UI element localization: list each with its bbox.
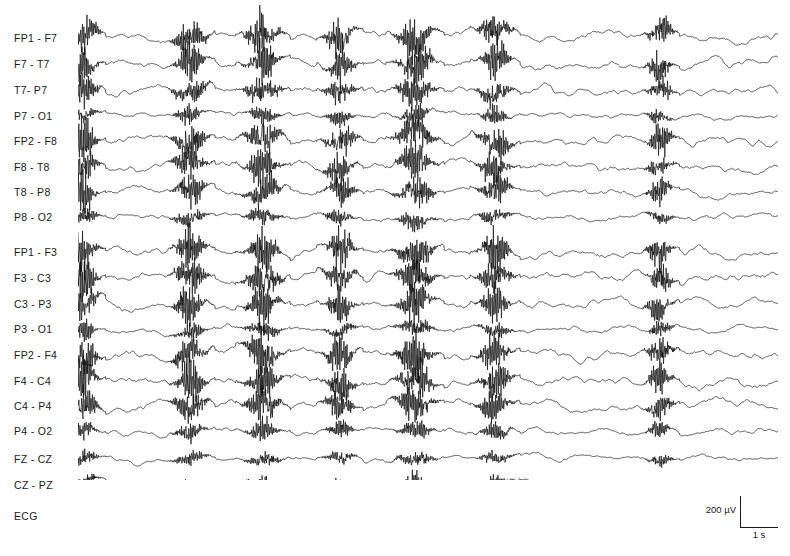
calibration-bar: 200 µV 1 s <box>694 494 790 542</box>
trace-p4-o2 <box>78 416 778 444</box>
channel-label-ecg: ECG <box>0 510 70 522</box>
trace-t7-p7 <box>78 72 778 111</box>
channel-label-f7-t7: F7 - T7 <box>0 58 70 70</box>
channel-label-f8-t8: F8 - T8 <box>0 161 70 173</box>
channel-label-cz-pz: CZ - PZ <box>0 479 70 491</box>
calibration-amplitude-label: 200 µV <box>694 504 736 515</box>
channel-label-column: FP1 - F7F7 - T7T7- P7P7 - O1FP2 - F8F8 -… <box>0 0 78 480</box>
eeg-figure: FP1 - F7F7 - T7T7- P7P7 - O1FP2 - F8F8 -… <box>0 0 790 556</box>
trace-p3-o1 <box>78 319 778 342</box>
channel-label-f3-c3: F3 - C3 <box>0 272 70 284</box>
channel-label-c4-p4: C4 - P4 <box>0 400 70 412</box>
channel-label-c3-p3: C3 - P3 <box>0 298 70 310</box>
trace-f4-c4 <box>78 356 778 405</box>
channel-label-fp1-f7: FP1 - F7 <box>0 32 70 44</box>
channel-label-fp1-f3: FP1 - F3 <box>0 246 70 258</box>
channel-label-f4-c4: F4 - C4 <box>0 375 70 387</box>
channel-label-p7-o1: P7 - O1 <box>0 110 70 122</box>
trace-c4-p4 <box>78 385 778 424</box>
eeg-trace-area <box>78 0 778 480</box>
eeg-trace-svg <box>78 0 778 480</box>
calibration-amplitude-line <box>740 496 741 528</box>
channel-label-fz-cz: FZ - CZ <box>0 453 70 465</box>
channel-label-t8-p8: T8 - P8 <box>0 186 70 198</box>
calibration-time-line <box>740 527 778 528</box>
trace-p8-o2 <box>78 208 778 232</box>
trace-p7-o1 <box>78 103 778 128</box>
calibration-time-label: 1 s <box>740 529 778 540</box>
trace-cz-pz <box>78 470 778 480</box>
trace-t8-p8 <box>78 169 778 214</box>
channel-label-p4-o2: P4 - O2 <box>0 425 70 437</box>
channel-label-fp2-f8: FP2 - F8 <box>0 135 70 147</box>
channel-label-p3-o1: P3 - O1 <box>0 323 70 335</box>
channel-label-p8-o2: P8 - O2 <box>0 211 70 223</box>
channel-label-t7-p7: T7- P7 <box>0 84 70 96</box>
channel-label-fp2-f4: FP2 - F4 <box>0 349 70 361</box>
trace-fz-cz <box>78 449 778 468</box>
